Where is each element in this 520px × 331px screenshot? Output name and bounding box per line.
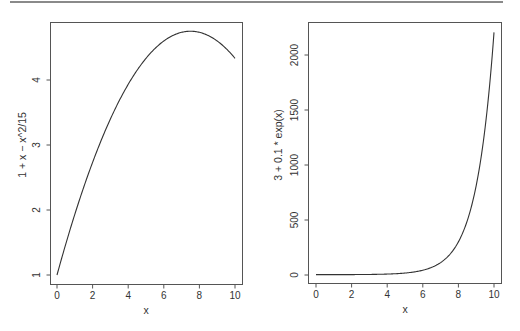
right-x-ticks: 0246810 xyxy=(313,284,500,301)
right-y-tick-label: 0 xyxy=(289,272,300,278)
left-y-ticks: 1234 xyxy=(31,77,51,278)
right-x-tick-label: 2 xyxy=(349,289,355,300)
left-x-axis-label: x xyxy=(143,304,149,316)
right-x-tick-label: 0 xyxy=(313,289,319,300)
right-y-tick-label: 2000 xyxy=(289,43,300,66)
right-plot-frame xyxy=(309,23,502,284)
right-x-tick-label: 8 xyxy=(456,289,462,300)
left-y-tick-label: 3 xyxy=(31,142,42,148)
left-curve-line xyxy=(57,31,235,275)
left-x-tick-label: 10 xyxy=(229,290,241,301)
chart-canvas: 0246810 1234 x 1 + x − x^2/15 0246810 05… xyxy=(0,0,520,331)
right-x-tick-label: 10 xyxy=(488,289,500,300)
right-curve-line xyxy=(316,32,494,274)
right-x-tick-label: 6 xyxy=(420,289,426,300)
right-y-ticks: 0500100015002000 xyxy=(289,43,309,277)
left-plot-panel: 0246810 1234 x 1 + x − x^2/15 xyxy=(16,23,243,317)
left-x-tick-label: 0 xyxy=(54,290,60,301)
left-y-tick-label: 2 xyxy=(31,207,42,213)
right-x-tick-label: 4 xyxy=(384,289,390,300)
left-y-axis-label: 1 + x − x^2/15 xyxy=(16,112,28,178)
right-y-tick-label: 1000 xyxy=(289,153,300,176)
right-y-axis-label: 3 + 0.1 * exp(x) xyxy=(272,109,284,181)
right-plot-panel: 0246810 0500100015002000 x 3 + 0.1 * exp… xyxy=(272,23,502,316)
left-x-tick-label: 4 xyxy=(125,290,131,301)
left-x-tick-label: 2 xyxy=(90,290,96,301)
left-plot-frame xyxy=(51,23,243,285)
left-x-tick-label: 6 xyxy=(161,290,167,301)
left-y-tick-label: 4 xyxy=(31,77,42,83)
left-y-tick-label: 1 xyxy=(31,272,42,278)
left-x-tick-label: 8 xyxy=(197,290,203,301)
left-x-ticks: 0246810 xyxy=(54,285,241,302)
right-x-axis-label: x xyxy=(402,303,408,315)
right-y-tick-label: 1500 xyxy=(289,98,300,121)
right-y-tick-label: 500 xyxy=(289,211,300,228)
